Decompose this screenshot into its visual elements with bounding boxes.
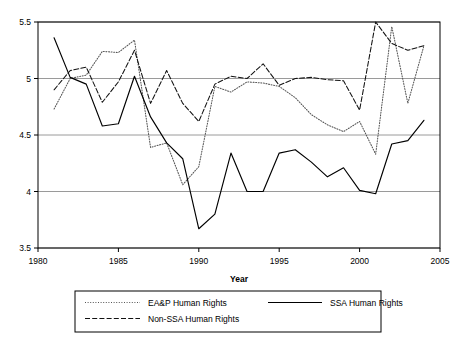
human-rights-line-chart: 3.544.555.5 198019851990199520002005 Yea… <box>0 0 456 340</box>
chart-background <box>0 0 456 340</box>
y-tick-label-4.5: 4.5 <box>19 130 31 140</box>
legend-label-0: EA&P Human Rights <box>148 298 227 308</box>
legend-label-1: SSA Human Rights <box>330 298 403 308</box>
x-tick-label-1980: 1980 <box>29 256 48 266</box>
y-tick-label-5: 5 <box>26 74 31 84</box>
chart-figure: 3.544.555.5 198019851990199520002005 Yea… <box>0 0 456 340</box>
x-axis-title: Year <box>230 274 249 284</box>
x-tick-label-1985: 1985 <box>109 256 128 266</box>
x-tick-label-2005: 2005 <box>431 256 450 266</box>
x-tick-label-1990: 1990 <box>189 256 208 266</box>
y-tick-label-5.5: 5.5 <box>19 17 31 27</box>
legend-label-2: Non-SSA Human Rights <box>148 314 239 324</box>
y-tick-label-4: 4 <box>26 187 31 197</box>
x-tick-label-2000: 2000 <box>350 256 369 266</box>
y-tick-label-3.5: 3.5 <box>19 243 31 253</box>
x-tick-label-1995: 1995 <box>270 256 289 266</box>
